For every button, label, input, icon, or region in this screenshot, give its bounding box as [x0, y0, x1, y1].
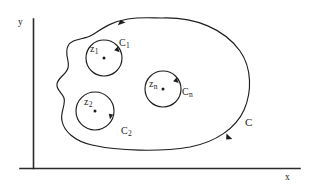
y-axis-label: y — [18, 18, 23, 28]
singularity-point-2 — [94, 110, 97, 113]
singularity-label-1-sub: 1 — [94, 47, 98, 56]
inner-contour-label-2-base: C — [121, 125, 128, 136]
x-axis-label: x — [285, 173, 290, 183]
singularity-point-1 — [103, 57, 106, 60]
singularity-label-n-sub: n — [153, 82, 157, 91]
inner-contour-label-n-base: C — [182, 86, 189, 97]
figure-canvas — [0, 0, 311, 187]
singularity-label-2-sub: 2 — [88, 100, 92, 109]
inner-contour-label-n: Cn — [182, 87, 193, 98]
singularity-label-2: z2 — [84, 97, 93, 108]
singularity-point-n — [162, 88, 165, 91]
outer-contour-arrow-bottom-right — [226, 134, 232, 140]
inner-contour-label-1: C1 — [119, 38, 130, 49]
singularity-label-1: z1 — [90, 44, 99, 55]
outer-contour-label: C — [245, 117, 253, 129]
inner-contour-label-2-sub: 2 — [128, 129, 132, 138]
inner-contour-label-2: C2 — [121, 126, 132, 137]
contour-integration-figure: y x z1 C1 z2 C2 zn Cn C — [0, 0, 311, 187]
inner-contour-label-1-base: C — [119, 37, 126, 48]
inner-contour-label-n-sub: n — [189, 90, 193, 99]
singularity-label-n: zn — [149, 79, 158, 90]
inner-contour-label-1-sub: 1 — [126, 41, 130, 50]
